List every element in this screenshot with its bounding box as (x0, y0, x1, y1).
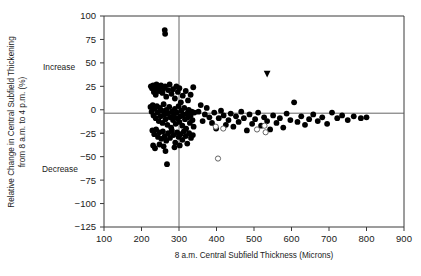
data-point-open (254, 127, 259, 132)
x-tick-label: 300 (171, 233, 187, 244)
y-axis-tick-labels: 1007550250−25−50−75−100−125 (75, 10, 96, 232)
data-point-filled (161, 101, 167, 107)
data-point-filled (228, 111, 234, 117)
data-point-filled (364, 114, 370, 120)
data-point-filled (255, 110, 261, 116)
chart-canvas: 100200300400500600700800900 1007550250−2… (0, 0, 421, 276)
data-point-filled (226, 117, 232, 123)
data-point-filled (152, 145, 158, 151)
data-point-filled (177, 143, 183, 149)
data-point-filled (244, 128, 250, 134)
data-point-filled (198, 102, 204, 108)
x-tick-label: 900 (396, 233, 412, 244)
data-point-filled (351, 113, 357, 119)
data-point-filled (329, 110, 335, 116)
decrease-note: Decrease (42, 164, 78, 174)
y-tick-label: −125 (75, 221, 96, 232)
data-point-filled (302, 122, 308, 128)
x-tick-label: 700 (321, 233, 337, 244)
data-point-filled (280, 125, 286, 131)
data-point-filled (345, 117, 351, 123)
x-tick-label: 200 (134, 233, 150, 244)
data-point-filled (298, 113, 304, 119)
data-point-filled (206, 114, 212, 120)
y-tick-label: 75 (85, 34, 96, 45)
x-tick-label: 600 (284, 233, 300, 244)
data-point-filled (270, 113, 276, 119)
data-point-filled (196, 109, 202, 115)
x-tick-label: 800 (359, 233, 375, 244)
data-point-filled (163, 94, 169, 100)
data-point-filled (310, 112, 316, 118)
x-axis-tick-labels: 100200300400500600700800900 (96, 233, 412, 244)
data-point-filled (172, 144, 178, 150)
data-point-filled (163, 148, 169, 154)
data-point-open (221, 126, 226, 131)
data-point-filled (291, 99, 297, 105)
data-point-open (262, 123, 267, 128)
y-tick-label: 50 (85, 57, 96, 68)
y-tick-label: −25 (80, 128, 96, 139)
data-point-filled (164, 161, 170, 167)
data-point-filled (295, 119, 301, 125)
data-point-filled (306, 116, 312, 122)
data-point-open (213, 124, 218, 129)
data-point-filled (172, 96, 178, 102)
data-point-filled (315, 118, 321, 124)
y-axis-title-line1: Relative Change in Central Subfield Thic… (7, 36, 16, 208)
data-point-open (263, 130, 268, 135)
data-point-filled (247, 112, 253, 118)
data-point-filled (274, 120, 280, 126)
data-point-filled (190, 132, 196, 138)
data-point-filled (200, 118, 206, 124)
data-point-filled (319, 114, 325, 120)
data-point-filled (324, 121, 330, 127)
data-point-filled (241, 115, 247, 121)
data-point-filled (287, 117, 293, 123)
y-tick-label: 100 (80, 10, 96, 21)
data-point-filled (191, 124, 197, 130)
data-point-filled (184, 141, 190, 147)
y-tick-label: 0 (91, 104, 96, 115)
data-point-filled (252, 116, 258, 122)
scatter-plot-figure: 100200300400500600700800900 1007550250−2… (0, 0, 421, 276)
x-tick-label: 100 (96, 233, 112, 244)
data-point-filled (211, 110, 217, 116)
data-points-group (148, 27, 370, 167)
data-point-filled (183, 88, 189, 94)
data-point-filled (176, 85, 182, 91)
data-point-filled (162, 31, 168, 37)
y-axis-ticks (100, 16, 104, 227)
data-point-filled (190, 84, 196, 90)
data-point-filled (334, 115, 340, 121)
y-tick-label: −75 (80, 175, 96, 186)
data-point-filled (339, 113, 345, 119)
data-point-filled (236, 119, 242, 125)
data-point-filled (238, 109, 244, 115)
y-tick-label: −100 (75, 198, 96, 209)
data-point-filled (277, 115, 283, 121)
data-point-filled (230, 124, 236, 130)
increase-note: Increase (43, 62, 75, 72)
data-point-filled (204, 105, 210, 111)
data-point-filled (167, 82, 173, 88)
x-axis-ticks (104, 227, 404, 231)
y-tick-label: −50 (80, 151, 96, 162)
data-point-filled (221, 113, 227, 119)
y-tick-label: 25 (85, 81, 96, 92)
data-point-filled (216, 115, 222, 121)
data-point-filled (358, 115, 364, 121)
data-point-filled (188, 92, 194, 98)
data-point-filled (233, 113, 239, 119)
x-axis-title: 8 a.m. Central Subfield Thickness (Micro… (175, 251, 334, 260)
x-tick-label: 500 (246, 233, 262, 244)
data-point-down-triangle (264, 71, 271, 78)
data-point-filled (190, 117, 196, 123)
data-point-open (215, 156, 220, 161)
data-point-filled (185, 98, 191, 104)
y-axis-title-line2: from 8 a.m. to 4 p.m. (%) (18, 76, 27, 167)
x-tick-label: 400 (209, 233, 225, 244)
data-point-filled (284, 111, 290, 117)
